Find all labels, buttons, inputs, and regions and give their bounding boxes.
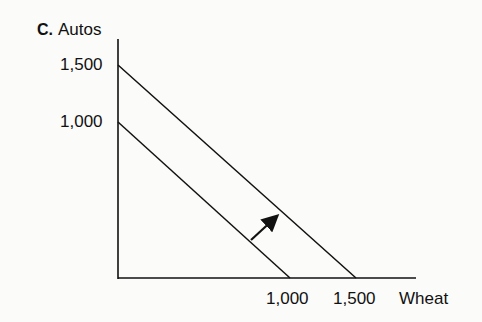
ppf-original-line (118, 122, 290, 278)
y-tick-1000: 1,000 (60, 113, 103, 130)
x-tick-1000: 1,000 (266, 290, 309, 307)
ppf-shifted-line (118, 65, 356, 278)
y-tick-1500: 1,500 (60, 56, 103, 73)
panel-label: C. (37, 22, 53, 38)
chart-figure: C. Autos 1,500 1,000 1,000 1,500 Wheat (0, 0, 482, 322)
x-tick-1500: 1,500 (333, 290, 376, 307)
x-axis-label: Wheat (399, 290, 448, 307)
shift-arrow-icon (251, 217, 276, 240)
y-axis-label: Autos (58, 21, 101, 38)
chart-plot (0, 0, 482, 322)
